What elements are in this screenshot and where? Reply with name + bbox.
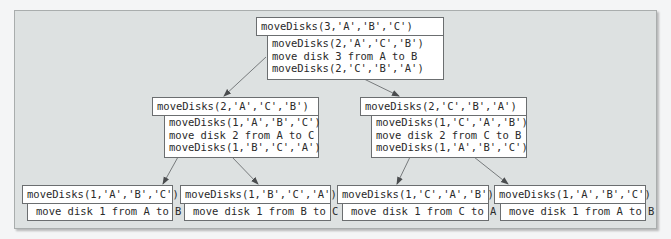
leaf-step: move disk 1 from B to C bbox=[184, 202, 331, 221]
root-call: moveDisks(3,'A','B','C') bbox=[256, 17, 444, 36]
arrow-root-to-right bbox=[362, 78, 399, 96]
leaf-call: moveDisks(1,'A','B','C') bbox=[22, 185, 173, 204]
arrow-root-to-left bbox=[224, 57, 266, 96]
step: move disk 2 from C to B bbox=[376, 129, 522, 142]
step: moveDisks(1,'B','C','A') bbox=[169, 141, 314, 154]
arrow-left-to-leaf1 bbox=[163, 157, 178, 184]
step: move disk 2 from A to C bbox=[169, 129, 314, 142]
arrow-right-to-leaf4 bbox=[474, 157, 508, 184]
step: moveDisks(1,'C','A','B') bbox=[376, 116, 522, 129]
leaf-call: moveDisks(1,'C','A','B') bbox=[337, 185, 489, 204]
root-step: move disk 3 from A to B bbox=[272, 50, 439, 63]
step: moveDisks(1,'A','B','C') bbox=[169, 116, 314, 129]
leaf-step: move disk 1 from C to A bbox=[342, 202, 489, 221]
leaf-call: moveDisks(1,'B','C','A') bbox=[180, 185, 331, 204]
leaf-step: move disk 1 from A to B bbox=[500, 202, 646, 221]
leaf-step: move disk 1 from A to B bbox=[27, 202, 173, 221]
arrow-right-to-leaf3 bbox=[397, 157, 410, 184]
root-step: moveDisks(2,'C','B','A') bbox=[272, 62, 439, 75]
level2-left-call: moveDisks(2,'A','C','B') bbox=[152, 97, 319, 116]
level2-right-call: moveDisks(2,'C','B','A') bbox=[360, 97, 527, 116]
root-steps: moveDisks(2,'A','C','B')move disk 3 from… bbox=[267, 35, 444, 80]
level2-right-steps: moveDisks(1,'C','A','B')move disk 2 from… bbox=[371, 114, 527, 158]
root-step: moveDisks(2,'A','C','B') bbox=[272, 37, 439, 50]
leaf-call: moveDisks(1,'A','B','C') bbox=[494, 185, 646, 204]
level2-left-steps: moveDisks(1,'A','B','C')move disk 2 from… bbox=[164, 114, 319, 158]
arrow-left-to-leaf2 bbox=[232, 157, 258, 184]
step: moveDisks(1,'A','B','C') bbox=[376, 141, 522, 154]
